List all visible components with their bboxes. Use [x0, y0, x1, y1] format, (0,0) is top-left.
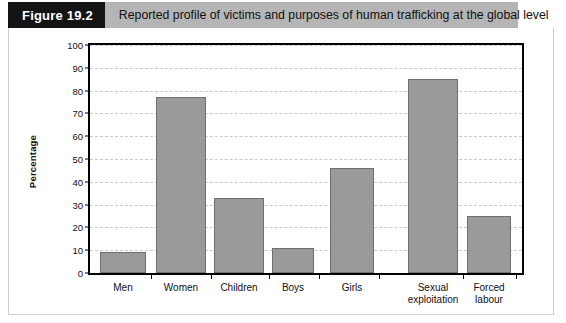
x-tick-mark [269, 273, 270, 279]
x-tick-label: Sexual exploitation [408, 282, 459, 305]
x-tick-label: Girls [342, 282, 363, 294]
y-tick-mark [85, 227, 90, 228]
x-tick-mark [211, 273, 212, 279]
x-tick-mark [379, 273, 380, 279]
y-tick-label: 0 [78, 268, 83, 279]
figure-number-tag: Figure 19.2 [8, 2, 105, 28]
y-axis-title: Percentage [27, 117, 38, 207]
x-tick-label: Men [113, 282, 132, 294]
bar [408, 79, 458, 273]
y-tick-mark [85, 45, 90, 46]
y-tick-mark [85, 273, 90, 274]
x-tick-label: Children [220, 282, 257, 294]
gridline [90, 45, 522, 46]
x-tick-mark [463, 273, 464, 279]
y-tick-label: 80 [72, 85, 83, 96]
y-tick-mark [85, 67, 90, 68]
y-tick-label: 50 [72, 154, 83, 165]
y-tick-mark [85, 113, 90, 114]
y-tick-label: 100 [67, 40, 83, 51]
y-tick-mark [85, 204, 90, 205]
gridline [90, 68, 522, 69]
y-tick-mark [85, 159, 90, 160]
x-tick-mark [516, 273, 517, 279]
bar [214, 198, 264, 273]
y-tick-mark [85, 90, 90, 91]
y-tick-label: 40 [72, 176, 83, 187]
figure-caption: Reported profile of victims and purposes… [105, 2, 549, 28]
x-tick-mark [151, 273, 152, 279]
y-tick-label: 70 [72, 108, 83, 119]
plot-region: 0102030405060708090100MenWomenChildrenBo… [88, 43, 524, 275]
bar [272, 248, 314, 273]
y-tick-label: 30 [72, 199, 83, 210]
bar [467, 216, 511, 273]
figure-header: Figure 19.2 Reported profile of victims … [8, 2, 518, 28]
x-tick-label: Boys [282, 282, 304, 294]
y-tick-label: 90 [72, 62, 83, 73]
y-tick-mark [85, 136, 90, 137]
x-tick-mark [319, 273, 320, 279]
bar [100, 252, 146, 273]
figure-card: Figure 19.2 Reported profile of victims … [0, 0, 566, 323]
bar [156, 97, 206, 273]
y-tick-label: 60 [72, 131, 83, 142]
x-tick-label: Forced labour [473, 282, 504, 305]
y-tick-mark [85, 250, 90, 251]
y-tick-mark [85, 181, 90, 182]
y-tick-label: 10 [72, 245, 83, 256]
chart-area: Percentage 0102030405060708090100MenWome… [0, 28, 566, 323]
x-tick-label: Women [164, 282, 198, 294]
bar [330, 168, 374, 273]
y-tick-label: 20 [72, 222, 83, 233]
